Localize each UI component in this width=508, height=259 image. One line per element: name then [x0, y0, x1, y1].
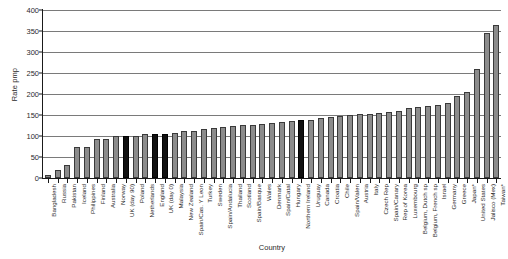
x-tick	[258, 179, 268, 183]
x-tick	[170, 179, 180, 183]
x-tick	[423, 179, 433, 183]
x-tick	[297, 179, 307, 183]
bar	[415, 107, 421, 178]
x-tick	[141, 179, 151, 183]
y-tick-label: 250	[26, 69, 39, 78]
x-tick-label-slot: Rep of Korea	[394, 184, 404, 240]
y-tick-label: 50	[31, 153, 39, 162]
bar-slot	[423, 10, 433, 178]
x-tick-label-slot: Spain/Cas. Y Leon	[189, 184, 199, 240]
bar-slot	[443, 10, 453, 178]
bar	[201, 129, 207, 178]
bar	[367, 114, 373, 178]
bar-slot	[306, 10, 316, 178]
x-tick	[375, 179, 385, 183]
x-tick-mark	[262, 179, 263, 183]
bar	[152, 134, 158, 178]
x-tick-label-slot: Spain/Canary	[384, 184, 394, 240]
x-tick-label-slot: Netherlands	[141, 184, 151, 240]
bar-slot	[492, 10, 502, 178]
x-tick-label-slot: Luxembourg	[404, 184, 414, 240]
bar-slot	[394, 10, 404, 178]
x-tick-label-slot: Finland	[92, 184, 102, 240]
x-tick	[414, 179, 424, 183]
x-tick-mark	[175, 179, 176, 183]
x-tick-mark	[87, 179, 88, 183]
x-tick-mark	[165, 179, 166, 183]
x-tick-label-slot: UK (day 90)	[121, 184, 131, 240]
x-tick	[443, 179, 453, 183]
x-tick-mark	[409, 179, 410, 183]
x-tick-mark	[272, 179, 273, 183]
x-tick	[189, 179, 199, 183]
bar-slot	[53, 10, 63, 178]
x-tick-mark	[418, 179, 419, 183]
x-tick-label-slot: Chile	[336, 184, 346, 240]
x-tick-mark	[477, 179, 478, 183]
bar	[445, 103, 451, 178]
bar	[181, 131, 187, 178]
y-tick-label: 0	[35, 174, 39, 183]
x-tick-label-slot: Japan*	[462, 184, 472, 240]
x-tick-mark	[350, 179, 351, 183]
bar-slot	[482, 10, 492, 178]
y-tick-label: 400	[26, 6, 39, 15]
x-tick-mark	[136, 179, 137, 183]
x-tick-label-slot: Wales	[258, 184, 268, 240]
x-tick	[384, 179, 394, 183]
bar-slot	[345, 10, 355, 178]
x-tick	[121, 179, 131, 183]
x-tick-label-slot: Spain/Valen	[345, 184, 355, 240]
bar	[386, 112, 392, 178]
bar	[406, 108, 412, 178]
x-tick	[492, 179, 502, 183]
x-tick-label-slot: Belgium, Dutch sp	[414, 184, 424, 240]
x-tick-label-slot: Pakistan	[63, 184, 73, 240]
bar-slot	[453, 10, 463, 178]
bar-slot	[404, 10, 414, 178]
x-tick-label-slot: Hungary	[287, 184, 297, 240]
x-tick	[111, 179, 121, 183]
x-tick-mark	[487, 179, 488, 183]
x-tick-mark	[77, 179, 78, 183]
x-tick-label-slot: Belgium, French sp	[423, 184, 433, 240]
x-tick-label-slot: Russia	[53, 184, 63, 240]
bar	[123, 136, 129, 178]
x-tick	[267, 179, 277, 183]
x-tick-mark	[58, 179, 59, 183]
x-tick-label-slot: Jalisco (Mex)	[482, 184, 492, 240]
x-tick	[150, 179, 160, 183]
y-tick-label: 150	[26, 111, 39, 120]
bar	[328, 117, 334, 178]
bar-slot	[160, 10, 170, 178]
bar-slot	[365, 10, 375, 178]
x-tick-label-slot: Sweden	[209, 184, 219, 240]
x-axis-tick-labels: BangladeshRussiaPakistanIcelandPhilippin…	[43, 184, 501, 240]
bar	[425, 106, 431, 178]
x-tick	[287, 179, 297, 183]
x-axis-title: Country	[43, 243, 501, 252]
x-tick-mark	[370, 179, 371, 183]
x-tick-mark	[106, 179, 107, 183]
x-tick-mark	[282, 179, 283, 183]
x-tick-mark	[116, 179, 117, 183]
bar-slot	[336, 10, 346, 178]
bar-slot	[92, 10, 102, 178]
bar-slot	[102, 10, 112, 178]
x-tick-label-slot: Iceland	[72, 184, 82, 240]
x-tick-label-slot: United States	[472, 184, 482, 240]
bar-slot	[316, 10, 326, 178]
x-tick-mark	[321, 179, 322, 183]
bar	[347, 115, 353, 178]
x-tick-label-slot: Canada	[316, 184, 326, 240]
bar	[464, 92, 470, 178]
x-tick-mark	[360, 179, 361, 183]
x-tick-mark	[389, 179, 390, 183]
x-tick-label-slot: Scotland	[238, 184, 248, 240]
x-tick-mark	[379, 179, 380, 183]
bar-slot	[277, 10, 287, 178]
bar	[220, 127, 226, 178]
x-tick-label-slot: Norway	[111, 184, 121, 240]
x-tick-mark	[223, 179, 224, 183]
x-tick-mark	[48, 179, 49, 183]
